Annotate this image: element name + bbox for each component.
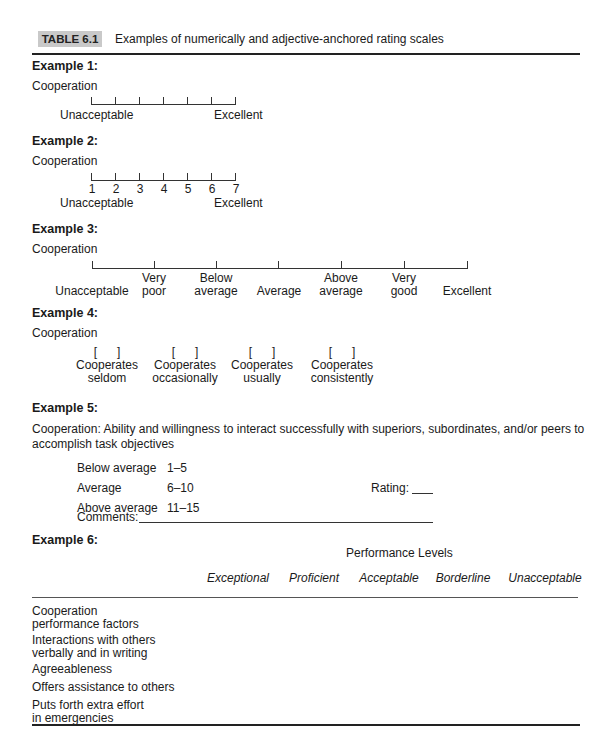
scale-tick bbox=[115, 97, 116, 105]
scale-tick bbox=[467, 261, 468, 269]
label-line2: average bbox=[319, 285, 362, 298]
scale-label: Average bbox=[257, 285, 301, 298]
scale-tick bbox=[235, 97, 236, 105]
comments-label: Comments: bbox=[77, 510, 138, 524]
scale-tick bbox=[187, 97, 188, 105]
scale-tick bbox=[139, 97, 140, 105]
scale-tick bbox=[341, 261, 342, 269]
scale-label: Verygood bbox=[391, 272, 418, 298]
example-2-title: Example 2: bbox=[32, 134, 98, 148]
example-1-title: Example 1: bbox=[32, 59, 98, 73]
range-label: Below average bbox=[77, 461, 156, 475]
option-line2: occasionally bbox=[152, 372, 217, 385]
example-3-dimension: Cooperation bbox=[32, 242, 97, 256]
scale-tick bbox=[92, 261, 93, 269]
example-4-dimension: Cooperation bbox=[32, 326, 97, 340]
label-line2: average bbox=[194, 285, 237, 298]
header-rule bbox=[32, 597, 578, 598]
table-row-label: Agreeableness bbox=[32, 663, 112, 676]
scale-tick bbox=[211, 173, 212, 181]
column-header: Acceptable bbox=[359, 572, 418, 585]
definition-line-1: Cooperation: Ability and willingness to … bbox=[32, 422, 584, 436]
label-line2: poor bbox=[142, 285, 166, 298]
scale-number: 2 bbox=[113, 183, 120, 196]
column-header: Exceptional bbox=[207, 572, 269, 585]
scale-label: Unacceptable bbox=[55, 272, 128, 298]
scale-number: 1 bbox=[89, 183, 96, 196]
scale-label: Verypoor bbox=[142, 272, 166, 298]
column-header: Borderline bbox=[436, 572, 491, 585]
range-value: 6–10 bbox=[167, 481, 194, 495]
option-line2: consistently bbox=[311, 372, 374, 385]
scale-tick bbox=[115, 173, 116, 181]
table-row-label: Puts forth extra effortin emergencies bbox=[32, 699, 144, 725]
row-line2: performance factors bbox=[32, 618, 139, 631]
scale-tick bbox=[211, 97, 212, 105]
definition-line-2: accomplish task objectives bbox=[32, 437, 174, 451]
anchor-low: Unacceptable bbox=[60, 196, 133, 210]
scale-number: 6 bbox=[209, 183, 216, 196]
range-value: 1–5 bbox=[167, 461, 187, 475]
anchor-high: Excellent bbox=[214, 108, 263, 122]
rating-option[interactable]: [ ] Cooperates seldom bbox=[76, 346, 138, 385]
example-3-title: Example 3: bbox=[32, 222, 98, 236]
rating-label: Rating: bbox=[371, 481, 409, 495]
rating-option[interactable]: [ ] Cooperates usually bbox=[231, 346, 293, 385]
scale-baseline bbox=[92, 268, 468, 269]
performance-levels-header: Performance Levels bbox=[346, 546, 453, 560]
scale-label: Aboveaverage bbox=[319, 272, 362, 298]
example-4-title: Example 4: bbox=[32, 306, 98, 320]
table-number-badge: TABLE 6.1 bbox=[38, 31, 102, 47]
scale-tick bbox=[278, 261, 279, 269]
scale-number: 5 bbox=[185, 183, 192, 196]
rating-option[interactable]: [ ] Cooperates occasionally bbox=[152, 346, 217, 385]
example-5-title: Example 5: bbox=[32, 401, 98, 415]
range-label: Average bbox=[77, 481, 121, 495]
anchor-low: Unacceptable bbox=[60, 108, 133, 122]
scale-number: 3 bbox=[137, 183, 144, 196]
option-line2: seldom bbox=[76, 372, 138, 385]
table-row-label: Cooperationperformance factors bbox=[32, 605, 139, 631]
table-row-label: Offers assistance to others bbox=[32, 681, 175, 694]
table-caption: Examples of numerically and adjective-an… bbox=[115, 32, 444, 46]
scale-tick bbox=[404, 261, 405, 269]
label-line2: good bbox=[391, 285, 418, 298]
rating-option[interactable]: [ ] Cooperates consistently bbox=[311, 346, 374, 385]
scale-number: 4 bbox=[161, 183, 168, 196]
scale-tick bbox=[235, 173, 236, 181]
column-header: Unacceptable bbox=[508, 572, 581, 585]
example-2-dimension: Cooperation bbox=[32, 154, 97, 168]
scale-tick bbox=[139, 173, 140, 181]
scale-tick bbox=[91, 97, 92, 105]
bottom-rule bbox=[32, 724, 580, 726]
scale-tick bbox=[154, 261, 155, 269]
table-row-label: Interactions with othersverbally and in … bbox=[32, 634, 155, 660]
scale-number: 7 bbox=[233, 183, 240, 196]
top-rule bbox=[32, 53, 580, 55]
example-1-dimension: Cooperation bbox=[32, 79, 97, 93]
scale-tick bbox=[91, 173, 92, 181]
scale-tick bbox=[187, 173, 188, 181]
row-line2: verbally and in writing bbox=[32, 647, 155, 660]
option-line2: usually bbox=[231, 372, 293, 385]
example-6-title: Example 6: bbox=[32, 533, 98, 547]
scale-label: Excellent bbox=[443, 285, 492, 298]
scale-tick bbox=[163, 173, 164, 181]
column-header: Proficient bbox=[289, 572, 339, 585]
anchor-high: Excellent bbox=[214, 196, 263, 210]
label-line2: Unacceptable bbox=[55, 285, 128, 298]
scale-tick bbox=[163, 97, 164, 105]
range-value: 11–15 bbox=[167, 501, 199, 515]
rating-field[interactable] bbox=[412, 493, 433, 494]
comments-field[interactable] bbox=[139, 522, 433, 523]
scale-tick bbox=[216, 261, 217, 269]
scale-label: Belowaverage bbox=[194, 272, 237, 298]
